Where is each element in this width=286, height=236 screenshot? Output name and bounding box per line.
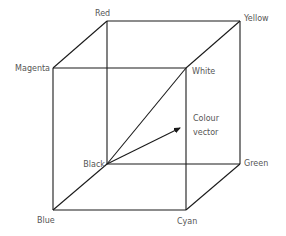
label-green: Green	[244, 159, 268, 168]
colour-vector-arrow	[107, 128, 180, 164]
edge-black-blue	[53, 164, 107, 210]
label-magenta: Magenta	[15, 64, 50, 73]
label-white: White	[192, 67, 215, 76]
edge-green-cyan	[186, 164, 240, 210]
edge-red-magenta	[53, 21, 107, 68]
edge-yellow-white	[186, 21, 240, 68]
diagonal-black-white	[107, 68, 186, 164]
label-red: Red	[95, 9, 110, 18]
label-yellow: Yellow	[243, 14, 269, 23]
label-black: Black	[83, 160, 105, 169]
label-blue: Blue	[37, 216, 55, 225]
label-cyan: Cyan	[177, 217, 197, 226]
label-colour-vector-line1: Colour	[193, 114, 220, 123]
colour-cube-diagram: Red Yellow Magenta White Black Green Blu…	[0, 0, 286, 236]
label-colour-vector-line2: vector	[193, 128, 219, 137]
